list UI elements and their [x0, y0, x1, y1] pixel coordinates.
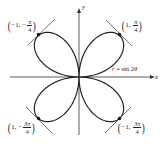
point-theta-denominator: 4	[134, 26, 137, 33]
point-label-bottom-left: (1, − 3π4)	[7, 121, 36, 135]
point-r: −1	[121, 124, 128, 131]
equation-theta: θ	[134, 65, 137, 72]
point-top-left	[37, 33, 40, 36]
point-theta-denominator: 4	[28, 26, 31, 33]
point-label-bottom-right: (−1, 3π4)	[117, 121, 146, 135]
point-label-top-left: (−1, − π4)	[7, 19, 37, 33]
y-axis-arrow-icon	[77, 8, 81, 13]
equation-label: r = sin 2θ	[112, 65, 137, 72]
x-axis-label: x	[155, 73, 158, 81]
point-bottom-left	[37, 117, 40, 120]
point-theta-numerator: π	[27, 19, 32, 26]
point-label-top-right: (1, π4)	[121, 19, 143, 33]
point-top-right	[118, 33, 121, 36]
point-theta-numerator: 3π	[133, 121, 141, 128]
equation-body: = sin 2	[115, 65, 134, 72]
point-theta-denominator: 4	[26, 128, 29, 135]
point-theta-denominator: 4	[136, 128, 139, 135]
y-axis-label: y	[82, 3, 85, 11]
point-theta-sign: −	[22, 22, 26, 29]
point-theta-sign: −	[18, 124, 22, 131]
point-r: −1	[11, 22, 18, 29]
point-theta-numerator: 3π	[23, 121, 31, 128]
point-theta-numerator: π	[133, 19, 138, 26]
